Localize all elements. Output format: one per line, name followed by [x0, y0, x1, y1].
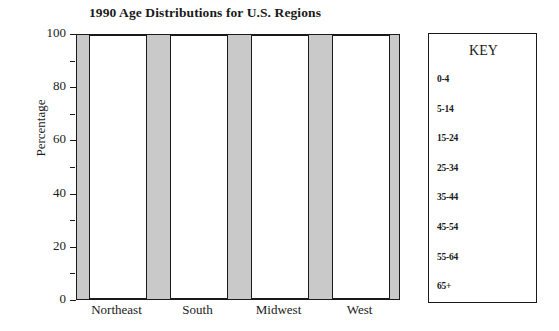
x-tick-label-midwest: Midwest: [256, 302, 302, 318]
y-tick-mark: [70, 273, 75, 274]
y-tick-mark: [70, 61, 75, 62]
bar-northeast: [89, 35, 147, 299]
x-tick-label-west: West: [347, 302, 373, 318]
x-axis: NortheastSouthMidwestWest: [76, 302, 400, 324]
y-tick-mark: [70, 167, 75, 168]
y-tick-mark: [70, 220, 75, 221]
bar-west: [332, 35, 390, 299]
y-tick-label: 60: [53, 131, 66, 147]
x-tick-label-northeast: Northeast: [91, 302, 142, 318]
legend-entry-65+: 65+: [437, 281, 451, 291]
y-tick-mark: [70, 114, 75, 115]
bar-south: [170, 35, 228, 299]
bar-segments: [90, 36, 146, 298]
y-tick-label: 20: [53, 238, 66, 254]
legend-entry-0-4: 0-4: [437, 74, 449, 84]
y-tick-label: 0: [60, 291, 67, 307]
bars-layer: [77, 35, 399, 299]
legend-entry-35-44: 35-44: [437, 192, 458, 202]
y-tick-label: 40: [53, 185, 66, 201]
bar-segments: [333, 36, 389, 298]
y-tick-mark: [70, 300, 76, 301]
legend-entry-45-54: 45-54: [437, 222, 458, 232]
legend-entry-55-64: 55-64: [437, 252, 458, 262]
y-tick-label: 80: [53, 78, 66, 94]
y-axis: 020406080100: [0, 0, 76, 331]
legend-entry-25-34: 25-34: [437, 163, 458, 173]
bar-segment-0-4: [252, 36, 308, 298]
bar-midwest: [251, 35, 309, 299]
bar-segment-0-4: [171, 36, 227, 298]
bar-segments: [252, 36, 308, 298]
bar-segment-0-4: [333, 36, 389, 298]
legend-entry-5-14: 5-14: [437, 104, 454, 114]
x-tick-label-south: South: [182, 302, 212, 318]
plot-area: [76, 34, 400, 300]
bar-segment-0-4: [90, 36, 146, 298]
legend-title: KEY: [429, 43, 538, 59]
y-tick-label: 100: [47, 25, 67, 41]
bar-segments: [171, 36, 227, 298]
legend-key-box: KEY 0-45-1415-2425-3435-4445-5455-6465+: [428, 33, 537, 303]
legend-entry-15-24: 15-24: [437, 133, 458, 143]
